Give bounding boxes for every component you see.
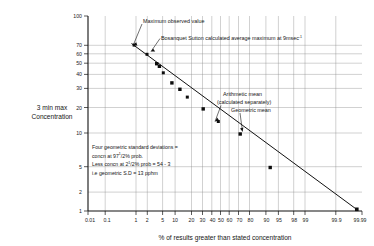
data-point bbox=[355, 208, 359, 212]
data-point bbox=[269, 166, 272, 169]
y-tick-label-5: 5 bbox=[79, 164, 82, 170]
x-tick-label-60: 60 bbox=[227, 217, 233, 223]
y-axis-ticks bbox=[84, 16, 88, 211]
x-axis-ticks bbox=[88, 211, 362, 215]
data-point bbox=[146, 53, 149, 56]
annotation-max-observed-value: Maximum observed value bbox=[143, 18, 204, 24]
x-tick-label-50: 50 bbox=[218, 217, 224, 223]
y-tick-label-20: 20 bbox=[76, 105, 82, 111]
y-tick-label-40: 40 bbox=[76, 71, 82, 77]
y-axis-title-line1: 3 min max bbox=[37, 104, 68, 111]
annotation-bosanquet-sutton-superscript: -1 bbox=[299, 35, 302, 39]
annotation-stats-line3-suffix: 2% prob = 54 - 3 bbox=[132, 161, 171, 167]
y-axis-title-line2: Concentration bbox=[31, 113, 72, 120]
annotation-stats-line4: i.e geometric S.D = 13 pphm bbox=[92, 170, 158, 176]
annotation-bosanquet-sutton: Bosanquet Sutton calculated average maxi… bbox=[161, 35, 302, 41]
annotation-stats-line1: Four geometric standard deviations = bbox=[92, 144, 178, 150]
x-tick-label-90: 90 bbox=[264, 217, 270, 223]
x-tick-label-98: 98 bbox=[291, 217, 297, 223]
x-axis-title: % of results greater than stated concent… bbox=[158, 234, 291, 242]
x-tick-label-80: 80 bbox=[248, 217, 254, 223]
data-point bbox=[186, 96, 189, 99]
y-tick-label-60: 60 bbox=[76, 51, 82, 57]
data-point bbox=[178, 88, 181, 91]
annotation-bosanquet-sutton-text: Bosanquet Sutton calculated average maxi… bbox=[161, 35, 299, 41]
y-tick-label-30: 30 bbox=[76, 85, 82, 91]
annotation-stats-line3: Less concn at 21/2% prob = 54 - 3 bbox=[92, 161, 170, 167]
annotation-arithmetic-mean-line2: (calculated separately) bbox=[217, 99, 271, 105]
x-tick-label-99.9: 99.9 bbox=[331, 217, 341, 223]
annotation-stats-line2-suffix: 2% prob. bbox=[122, 153, 143, 159]
data-point bbox=[162, 71, 165, 74]
x-tick-label-0.1: 0.1 bbox=[103, 217, 110, 223]
x-tick-label-95: 95 bbox=[276, 217, 282, 223]
data-point bbox=[202, 107, 205, 110]
annotation-geometric-mean: Geometric mean bbox=[231, 107, 271, 113]
y-tick-label-70: 70 bbox=[76, 42, 82, 48]
data-point bbox=[239, 132, 242, 135]
data-point bbox=[158, 65, 161, 68]
x-tick-labels: 0.01 0.1 1 2 5 10 20 30 40 50 60 70 80 9… bbox=[85, 217, 367, 223]
x-tick-label-70: 70 bbox=[237, 217, 243, 223]
y-tick-label-10: 10 bbox=[76, 130, 82, 136]
x-tick-label-20: 20 bbox=[189, 217, 195, 223]
y-tick-label-50: 50 bbox=[76, 60, 82, 66]
x-tick-label-40: 40 bbox=[210, 217, 216, 223]
annotation-arithmetic-mean-line1: Arithmetic mean bbox=[223, 91, 262, 97]
data-point bbox=[170, 81, 173, 84]
x-tick-label-99: 99 bbox=[303, 217, 309, 223]
annotation-stats-line2: concn at 971/2% prob. bbox=[92, 152, 143, 158]
x-tick-label-1: 1 bbox=[135, 217, 138, 223]
y-tick-label-100: 100 bbox=[73, 13, 82, 19]
x-tick-label-99.99: 99.99 bbox=[354, 217, 367, 223]
x-tick-label-0.01: 0.01 bbox=[85, 217, 95, 223]
log-probability-plot: 100 70 60 50 40 30 20 10 5 2 1 bbox=[0, 0, 374, 246]
chart-root: 100 70 60 50 40 30 20 10 5 2 1 bbox=[0, 0, 374, 246]
annotation-stats-line3-prefix: Less concn at 2 bbox=[92, 161, 128, 167]
annotation-stats-line2-prefix: concn at 97 bbox=[92, 153, 119, 159]
x-tick-label-2: 2 bbox=[146, 217, 149, 223]
y-tick-label-1: 1 bbox=[79, 208, 82, 214]
x-tick-label-30: 30 bbox=[200, 217, 206, 223]
y-tick-label-2: 2 bbox=[79, 189, 82, 195]
x-tick-label-10: 10 bbox=[172, 217, 178, 223]
x-tick-label-5: 5 bbox=[161, 217, 164, 223]
